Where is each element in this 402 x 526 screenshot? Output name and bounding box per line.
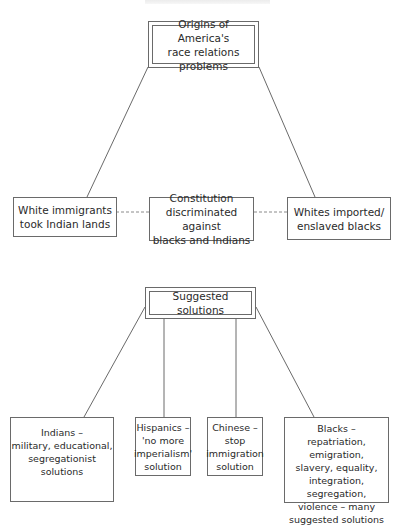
connector-origins-to-whites-imported	[259, 67, 315, 197]
solution-text-line: violence – many	[285, 500, 388, 513]
solution-text-line: Chinese –	[206, 421, 264, 434]
cause-text-line: White immigrants	[18, 203, 112, 217]
solution-text-line: Indians –	[11, 426, 113, 439]
solution-text-line: solution	[134, 460, 192, 473]
connector-solutions-to-blacks	[256, 307, 314, 417]
cause-text-line: enslaved blacks	[294, 219, 385, 233]
solution-text-line: Blacks –	[285, 422, 388, 435]
origins-title-box: Origins of America's race relations prob…	[148, 21, 259, 68]
solution-text-line: slavery, equality,	[285, 461, 388, 474]
solution-text-line: integration, segregation,	[285, 474, 388, 500]
solutions-title: Suggested solutions	[150, 289, 251, 317]
cause-text-line: took Indian lands	[18, 217, 112, 231]
solution-text-line: repatriation, emigration,	[285, 435, 388, 461]
solution-text-line: military, educational,	[11, 439, 113, 452]
cause-text-line: Whites imported/	[294, 205, 385, 219]
solution-text-line: 'no more	[134, 434, 192, 447]
solution-text-line: stop	[206, 434, 264, 447]
solution-text-line: immigration	[206, 447, 264, 460]
solution-box-chinese: Chinese – stop immigration solution	[207, 417, 263, 476]
solution-box-hispanics: Hispanics – 'no more imperialism' soluti…	[135, 417, 191, 476]
solution-text-line: suggested solutions	[285, 513, 388, 526]
cause-box-white-immigrants: White immigrants took Indian lands	[13, 197, 117, 237]
connector-solutions-to-indians	[84, 307, 145, 417]
cause-box-constitution: Constitution discriminated against black…	[149, 197, 254, 241]
solution-box-indians: Indians – military, educational, segrega…	[10, 417, 114, 502]
cause-text-line: blacks and Indians	[150, 233, 253, 247]
origins-title-line: Origins of America's	[153, 17, 254, 45]
solution-text-line: solution	[206, 460, 264, 473]
solution-text-line: segregationist solutions	[11, 452, 113, 478]
cause-text-line: discriminated against	[150, 205, 253, 233]
origins-title-line: race relations problems	[153, 45, 254, 73]
solutions-title-box: Suggested solutions	[145, 287, 256, 319]
solution-text-line: imperialism'	[134, 447, 192, 460]
connector-origins-to-white-immigrants	[87, 67, 148, 197]
solution-box-blacks: Blacks – repatriation, emigration, slave…	[284, 417, 389, 503]
cause-text-line: Constitution	[150, 191, 253, 205]
cause-box-whites-imported: Whites imported/ enslaved blacks	[287, 197, 391, 240]
solution-text-line: Hispanics –	[134, 421, 192, 434]
